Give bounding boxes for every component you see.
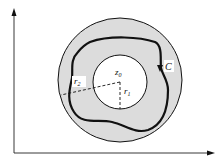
annulus-diagram: r2 z0 r1 C (0, 0, 223, 166)
y-axis-arrow-icon (12, 8, 17, 16)
x-axis-arrow-icon (207, 151, 215, 156)
contour-c-label: C (165, 61, 172, 72)
